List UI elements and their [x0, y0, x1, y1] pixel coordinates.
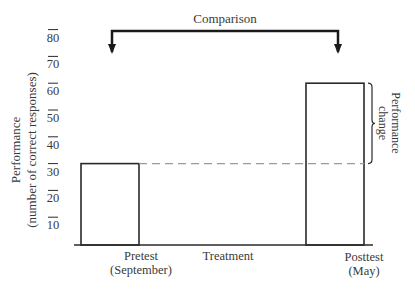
- y-tick-label: 70: [47, 57, 60, 71]
- performance-change-label-line-2: change: [376, 106, 390, 140]
- comparison-label: Comparison: [193, 11, 257, 26]
- arrow-down-icon: [108, 44, 116, 54]
- performance-change-brace: Performance change: [368, 83, 403, 163]
- y-tick-label: 30: [47, 165, 60, 179]
- pre-post-diagram: Performance (number of correct responses…: [0, 0, 415, 290]
- y-axis-label-line-2: (number of correct responses): [24, 72, 39, 228]
- arrow-down-icon: [334, 44, 342, 54]
- pretest-label: Pretest: [124, 249, 159, 263]
- posttest-label: Posttest: [345, 250, 384, 264]
- y-tick-label: 60: [47, 84, 60, 98]
- y-tick-label: 20: [47, 191, 60, 205]
- y-tick-label: 50: [47, 111, 60, 125]
- pretest-sublabel: (September): [110, 263, 172, 277]
- y-axis-ticks: 1020304050607080: [47, 30, 60, 233]
- y-axis-label-line-1: Performance: [8, 117, 23, 184]
- y-tick-label: 40: [47, 138, 60, 152]
- performance-change-label-line-1: Performance: [389, 92, 403, 153]
- y-tick-label: 10: [47, 218, 60, 232]
- y-tick-label: 80: [47, 31, 60, 45]
- treatment-label: Treatment: [203, 249, 254, 263]
- comparison-arrow-bracket: Comparison: [108, 11, 342, 54]
- y-axis-label: Performance (number of correct responses…: [8, 72, 39, 228]
- posttest-sublabel: (May): [348, 264, 379, 278]
- pretest-bar: [81, 164, 139, 245]
- x-axis-labels: Pretest (September) Treatment Posttest (…: [110, 249, 384, 278]
